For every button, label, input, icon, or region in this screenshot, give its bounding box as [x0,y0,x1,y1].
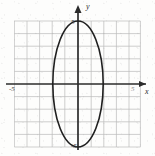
coordinate-plane [0,0,155,156]
y-axis-tick-label-negative-5: -5 [71,143,77,150]
y-axis-tick-label-positive-5: 5 [71,19,75,26]
graph-figure: -5 5 5 -5 x y [0,0,155,156]
x-axis-tick-label-negative-5: -5 [9,86,15,93]
x-axis-tick-label-positive-5: 5 [131,86,135,93]
y-axis-label: y [86,3,90,11]
x-axis-label: x [145,88,149,96]
